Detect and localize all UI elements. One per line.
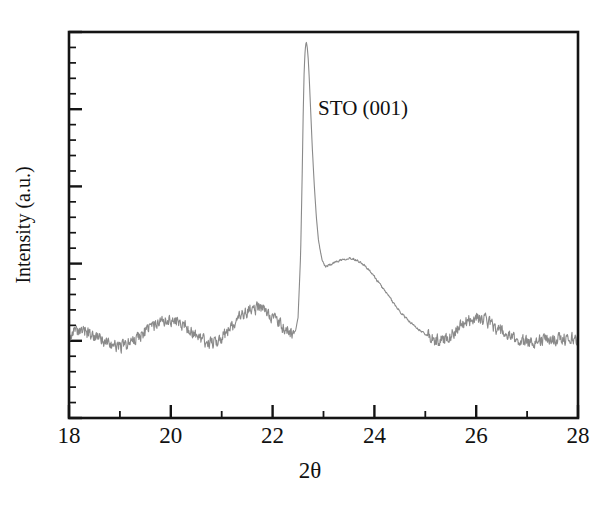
x-tick-label: 20 [159,423,182,448]
plot-background [69,32,578,418]
x-tick-label: 24 [363,423,387,448]
sto-peak-annotation: STO (001) [318,96,408,120]
x-axis-label: 2θ [299,458,322,483]
x-tick-label: 26 [465,423,488,448]
x-tick-label: 28 [567,423,590,448]
y-axis-label: Intensity (a.u.) [12,166,35,283]
x-axis-tick-labels: 182022242628 [58,423,590,448]
plot-canvas: 182022242628 2θ Intensity (a.u.) STO (00… [0,0,611,507]
xrd-figure: 182022242628 2θ Intensity (a.u.) STO (00… [0,0,611,507]
x-tick-label: 18 [58,423,81,448]
x-tick-label: 22 [261,423,284,448]
